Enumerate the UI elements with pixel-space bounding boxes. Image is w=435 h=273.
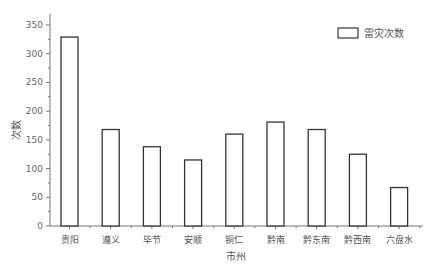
x-axis: 贵阳遵义毕节安顺铜仁黔南黔东南黔西南六盘水	[50, 226, 423, 245]
bar	[267, 122, 284, 226]
x-tick-label: 六盘水	[386, 234, 413, 245]
x-tick-label: 黔西南	[344, 234, 371, 245]
x-tick-label: 贵阳	[61, 234, 79, 245]
bar	[391, 188, 408, 226]
y-tick-label: 250	[26, 77, 43, 87]
y-tick-label: 150	[26, 135, 43, 145]
x-tick-label: 黔东南	[303, 234, 330, 245]
y-tick-label: 300	[26, 49, 43, 59]
y-tick-label: 350	[26, 20, 43, 30]
bar	[102, 130, 119, 226]
y-axis: 050100150200250300350	[26, 14, 50, 231]
x-tick-label: 安顺	[184, 234, 202, 245]
legend: 雷灾次数	[338, 27, 404, 39]
bar-chart: 050100150200250300350 贵阳遵义毕节安顺铜仁黔南黔东南黔西南…	[0, 0, 435, 273]
x-tick-label: 毕节	[143, 234, 161, 245]
bar	[349, 154, 366, 226]
x-tick-label: 黔南	[267, 234, 285, 245]
x-tick-label: 铜仁	[225, 234, 243, 245]
y-tick-label: 100	[26, 164, 43, 174]
bar	[61, 37, 78, 226]
bar	[226, 134, 243, 226]
y-tick-label: 50	[32, 192, 44, 202]
y-axis-title: 次数	[10, 120, 22, 140]
x-axis-title: 市州	[226, 250, 246, 262]
bars	[61, 37, 408, 226]
y-tick-label: 0	[37, 221, 43, 231]
legend-swatch	[338, 28, 358, 38]
bar	[185, 160, 202, 226]
bar	[143, 147, 160, 226]
bar	[308, 130, 325, 226]
x-tick-label: 遵义	[102, 234, 120, 245]
legend-label: 雷灾次数	[364, 27, 404, 39]
y-tick-label: 200	[26, 106, 43, 116]
